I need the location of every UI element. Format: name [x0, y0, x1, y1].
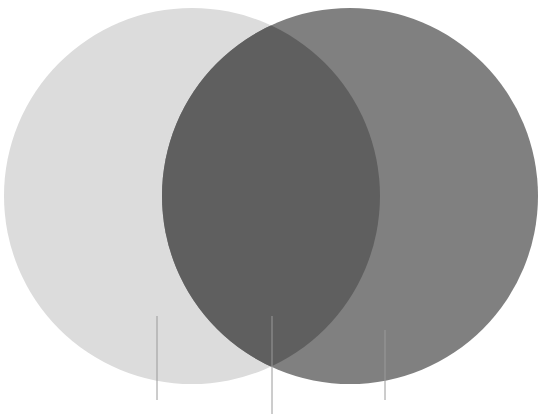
- venn-diagram: [0, 0, 544, 414]
